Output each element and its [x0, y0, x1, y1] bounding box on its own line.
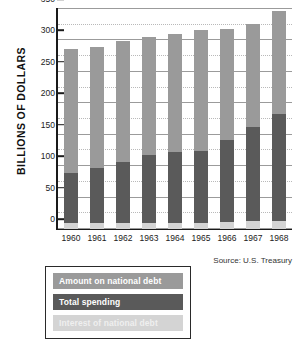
- x-axis-labels: 196019611962196319641965196619671968: [58, 233, 292, 243]
- bar-segment: [142, 155, 156, 223]
- bar-segment: [168, 223, 182, 229]
- y-axis-tick-label: 300: [41, 25, 55, 35]
- bar-segment: [246, 24, 260, 126]
- stacked-bar: [220, 29, 234, 230]
- x-axis-tick-label: 1965: [188, 233, 214, 243]
- bar-segment: [64, 223, 78, 229]
- bar-segment: [90, 223, 104, 229]
- source-note: Source: U.S. Treasury: [213, 256, 292, 265]
- y-axis-tick-label: 100: [41, 151, 55, 161]
- chart-legend: Amount on national debt Total spending I…: [45, 266, 191, 339]
- bar-segment: [272, 114, 286, 221]
- bar-segment: [220, 222, 234, 229]
- x-axis-tick-label: 1966: [214, 233, 240, 243]
- stacked-bar: [246, 24, 260, 229]
- bar-segment: [116, 223, 130, 229]
- bar-segment: [142, 37, 156, 156]
- legend-item-amount-on-national-debt: Amount on national debt: [53, 273, 183, 289]
- bar-segment: [168, 34, 182, 153]
- bar-segment: [90, 47, 104, 168]
- bar-slot: [240, 9, 266, 229]
- bar-segment: [64, 49, 78, 173]
- bar-slot: [162, 9, 188, 229]
- bar-segment: [116, 41, 130, 162]
- bar-segment: [220, 140, 234, 222]
- legend-label: Amount on national debt: [59, 276, 161, 286]
- bar-segment: [194, 223, 208, 229]
- bar-segment: [246, 221, 260, 229]
- bar-segment: [246, 127, 260, 222]
- stacked-bar: [90, 47, 104, 229]
- plot-inner: 050100150200250300350: [58, 9, 292, 229]
- bar-segment: [194, 30, 208, 151]
- y-axis-title: BILLIONS OF DOLLARS: [15, 46, 27, 176]
- y-axis-tick-label: 250: [41, 57, 55, 67]
- bar-segment: [142, 223, 156, 229]
- x-axis-tick-label: 1962: [110, 233, 136, 243]
- bar-segment: [64, 173, 78, 223]
- x-axis-tick-label: 1967: [240, 233, 266, 243]
- bar-slot: [188, 9, 214, 229]
- legend-label: Interest of national debt: [59, 318, 158, 328]
- stacked-bar: [272, 11, 286, 229]
- bar-slot: [58, 9, 84, 229]
- stacked-bar: [116, 41, 130, 229]
- legend-label: Total spending: [59, 297, 120, 307]
- bar-segment: [116, 162, 130, 223]
- y-axis-tick-label: 200: [41, 88, 55, 98]
- y-axis-tick-label: 50: [46, 183, 55, 193]
- y-axis-tick-label: 0: [50, 214, 55, 224]
- stacked-bar: [64, 49, 78, 229]
- legend-item-interest-of-national-debt: Interest of national debt: [53, 315, 183, 331]
- x-axis-tick-label: 1964: [162, 233, 188, 243]
- legend-item-total-spending: Total spending: [53, 294, 183, 310]
- x-axis-tick-label: 1961: [84, 233, 110, 243]
- bar-series-group: [58, 9, 292, 229]
- stacked-bar-chart: BILLIONS OF DOLLARS 05010015020025030035…: [0, 0, 296, 348]
- stacked-bar: [194, 30, 208, 229]
- bar-slot: [214, 9, 240, 229]
- y-axis-tick-label: 150: [41, 120, 55, 130]
- bar-segment: [220, 29, 234, 141]
- plot-area: 050100150200250300350: [58, 9, 292, 229]
- stacked-bar: [142, 37, 156, 229]
- bar-slot: [110, 9, 136, 229]
- bar-segment: [168, 152, 182, 222]
- x-axis-tick-label: 1960: [58, 233, 84, 243]
- x-axis-tick-label: 1963: [136, 233, 162, 243]
- bar-segment: [194, 151, 208, 223]
- bar-segment: [272, 221, 286, 229]
- bar-slot: [84, 9, 110, 229]
- stacked-bar: [168, 34, 182, 229]
- bar-segment: [90, 168, 104, 223]
- bar-slot: [136, 9, 162, 229]
- y-axis-tick-label: 350: [41, 0, 55, 4]
- x-axis-tick-label: 1968: [266, 233, 292, 243]
- bar-slot: [266, 9, 292, 229]
- bar-segment: [272, 11, 286, 114]
